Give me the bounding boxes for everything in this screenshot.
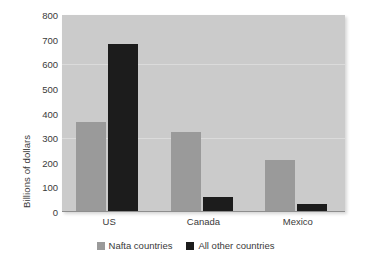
bar-canada-other [203,197,233,212]
bar-chart-figure: Billions of dollars 01002003004005006007… [0,0,371,270]
legend-item-2: All other countries [186,240,274,251]
y-axis-tick-600: 600 [30,60,58,69]
plot-area [62,15,345,212]
y-axis-tick-700: 700 [30,35,58,44]
y-axis-tick-labels: 0100200300400500600700800 [30,15,58,212]
legend-swatch-icon-2 [186,242,194,250]
legend-swatch-icon-1 [97,242,105,250]
x-axis-tick-mexico: Mexico [258,216,338,227]
bar-mexico-nafta [265,160,295,212]
y-axis-tick-0: 0 [30,208,58,217]
legend-label-2: All other countries [198,240,274,251]
legend-item-1: Nafta countries [97,240,173,251]
legend-label-1: Nafta countries [109,240,173,251]
y-axis-tick-400: 400 [30,109,58,118]
x-axis-baseline [62,211,345,212]
bar-us-other [108,44,138,212]
y-axis-tick-100: 100 [30,183,58,192]
bar-canada-nafta [171,132,201,212]
y-axis-tick-800: 800 [30,11,58,20]
y-axis-tick-200: 200 [30,158,58,167]
bar-us-nafta [76,122,106,212]
x-axis-tick-canada: Canada [164,216,244,227]
x-axis-tick-us: US [69,216,149,227]
y-axis-tick-500: 500 [30,84,58,93]
chart-legend: Nafta countriesAll other countries [0,240,371,251]
x-axis-tick-labels: USCanadaMexico [62,216,345,232]
gridline-600 [62,64,345,65]
y-axis-tick-300: 300 [30,134,58,143]
